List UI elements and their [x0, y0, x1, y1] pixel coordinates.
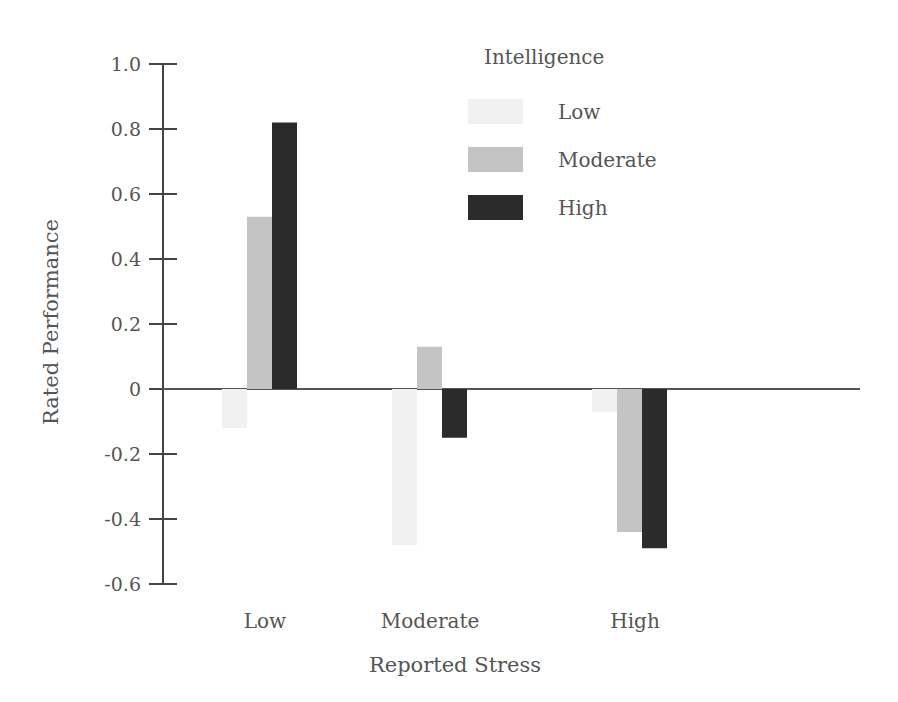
- legend-swatch-high: [468, 195, 523, 220]
- bar-moderate-high: [442, 389, 467, 438]
- y-tick-label: 0.2: [111, 313, 141, 335]
- y-tick-label: -0.2: [104, 443, 141, 465]
- x-tick-label: Low: [244, 609, 286, 633]
- legend-swatch-low: [468, 99, 523, 124]
- bar-moderate-moderate: [417, 347, 442, 389]
- bar-low-low: [222, 389, 247, 428]
- bar-moderate-low: [392, 389, 417, 545]
- bar-high-moderate: [617, 389, 642, 532]
- y-tick-label: 0.8: [111, 118, 141, 140]
- y-tick-label: 0.4: [111, 248, 141, 270]
- bar-low-high: [272, 123, 297, 390]
- bar-high-low: [592, 389, 617, 412]
- y-tick-label: 0.6: [111, 183, 141, 205]
- legend-swatch-moderate: [468, 147, 523, 172]
- y-tick-label: 1.0: [111, 53, 141, 75]
- y-tick-label: 0: [129, 378, 141, 400]
- legend-label: High: [558, 196, 608, 220]
- y-tick-label: -0.6: [104, 573, 141, 595]
- x-tick-label: High: [610, 609, 660, 633]
- bar-high-high: [642, 389, 667, 548]
- legend-label: Low: [558, 100, 600, 124]
- x-axis-title: Reported Stress: [369, 653, 541, 677]
- legend-label: Moderate: [558, 148, 657, 172]
- x-tick-label: Moderate: [381, 609, 480, 633]
- legend-title: Intelligence: [484, 45, 604, 69]
- y-tick-label: -0.4: [104, 508, 141, 530]
- bar-low-moderate: [247, 217, 272, 389]
- y-axis-title: Rated Performance: [39, 219, 63, 425]
- bar-chart: 1.00.80.60.40.20-0.2-0.4-0.6LowModerateH…: [0, 0, 898, 702]
